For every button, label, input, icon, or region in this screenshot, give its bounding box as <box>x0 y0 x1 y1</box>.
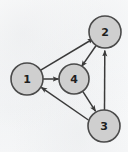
edge-4-to-3 <box>83 92 96 112</box>
node-4-label: 4 <box>70 73 78 86</box>
edge-2-to-4 <box>82 45 97 66</box>
node-4[interactable]: 4 <box>59 64 89 94</box>
node-3-label: 3 <box>100 120 108 133</box>
node-1-label: 1 <box>23 73 31 86</box>
node-1[interactable]: 1 <box>11 63 43 95</box>
node-2-label: 2 <box>101 26 109 39</box>
node-3[interactable]: 3 <box>88 110 120 142</box>
directed-graph-figure: 1 2 3 4 <box>0 0 128 152</box>
graph-canvas: 1 2 3 4 <box>0 0 128 152</box>
node-2[interactable]: 2 <box>89 16 121 48</box>
